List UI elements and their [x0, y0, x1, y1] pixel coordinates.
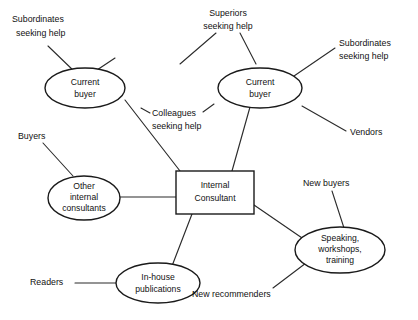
node-label-line-2: buyer	[249, 89, 271, 99]
node-shape-ellipse	[116, 263, 200, 303]
edge-internal-consultant-to-speaking	[254, 205, 305, 240]
label-buyers: Buyers	[18, 131, 46, 141]
leader-buyers	[43, 143, 73, 176]
label-line-2: seeking help	[203, 21, 253, 31]
label-vendors: Vendors	[350, 127, 383, 137]
label-new-buyers: New buyers	[303, 178, 350, 188]
edge-left-buyer-upper-stub	[97, 58, 115, 70]
node-other-internal-consultants[interactable]: Other internal consultants	[48, 176, 120, 220]
node-label-line-1: Internal	[201, 180, 230, 190]
node-label-line-1: Speaking,	[321, 233, 359, 243]
node-label-line-2: Consultant	[194, 193, 236, 203]
label-line-1: Superiors	[209, 8, 247, 18]
node-label-line-1: Current	[246, 77, 275, 87]
node-label-line-2: workshops,	[317, 244, 361, 254]
node-shape-ellipse	[45, 68, 125, 108]
label-subordinates-seeking-help-left: Subordinates seeking help	[12, 14, 66, 38]
node-label-line-1: Other	[73, 181, 95, 191]
node-label-line-1: In-house	[141, 272, 175, 282]
network-diagram: Current buyer Current buyer Other intern…	[0, 0, 418, 320]
node-label-line-2: publications	[135, 284, 180, 294]
node-speaking-workshops-training[interactable]: Speaking, workshops, training	[295, 227, 385, 273]
node-label-line-3: consultants	[62, 203, 105, 213]
node-label-line-3: training	[326, 255, 354, 265]
leader-new-recommenders	[273, 263, 306, 288]
label-colleagues-seeking-help: Colleagues seeking help	[152, 108, 202, 131]
leader-superiors-to-right-buyer	[240, 33, 256, 64]
label-subordinates-seeking-help-right: Subordinates seeking help	[339, 38, 391, 61]
label-line-1: Subordinates	[12, 14, 64, 24]
leader-colleagues-left	[141, 108, 150, 113]
edge-right-buyer-to-internal-consultant	[232, 107, 250, 171]
node-in-house-publications[interactable]: In-house publications	[116, 263, 200, 303]
leader-new-buyers	[332, 191, 344, 228]
label-line-1: Subordinates	[339, 38, 391, 48]
label-line-1: Colleagues	[152, 108, 197, 118]
node-current-buyer-left[interactable]: Current buyer	[45, 68, 125, 108]
leader-colleagues-right	[203, 104, 214, 112]
leader-subordinates-right	[294, 48, 335, 76]
label-line-2: seeking help	[152, 121, 202, 131]
edge-internal-consultant-to-publications	[172, 214, 192, 266]
label-line-2: seeking help	[339, 51, 389, 61]
node-current-buyer-right[interactable]: Current buyer	[218, 68, 302, 108]
label-line-2: seeking help	[16, 28, 66, 38]
node-internal-consultant[interactable]: Internal Consultant	[176, 171, 254, 214]
label-new-recommenders: New recommenders	[192, 289, 271, 299]
label-superiors-seeking-help: Superiors seeking help	[203, 8, 253, 31]
node-shape-ellipse	[218, 68, 302, 108]
node-label-line-2: internal	[70, 192, 98, 202]
node-label-line-1: Current	[71, 77, 100, 87]
label-readers: Readers	[30, 277, 64, 287]
leader-superiors-to-left-buyer	[180, 33, 216, 64]
node-label-line-2: buyer	[74, 89, 96, 99]
leader-vendors	[302, 106, 346, 131]
diagram-canvas: Current buyer Current buyer Other intern…	[0, 0, 418, 320]
